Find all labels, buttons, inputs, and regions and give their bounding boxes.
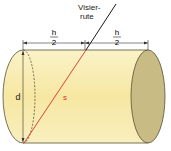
cylinder-diagram: h 2 h 2 d s Visier- rute xyxy=(0,0,171,151)
diameter-label: d xyxy=(15,92,20,102)
cylinder-end-face xyxy=(131,50,165,143)
svg-text:2: 2 xyxy=(115,38,120,47)
rod-label-line1: Visier- xyxy=(78,3,101,12)
slant-label: s xyxy=(63,93,67,102)
svg-text:h: h xyxy=(52,28,56,37)
svg-text:h: h xyxy=(115,28,119,37)
rod-label-line2: rute xyxy=(80,12,94,21)
half-h-label-left: h 2 xyxy=(50,28,58,47)
svg-text:2: 2 xyxy=(52,38,57,47)
half-h-label-right: h 2 xyxy=(113,28,121,47)
cylinder-body xyxy=(3,50,148,143)
